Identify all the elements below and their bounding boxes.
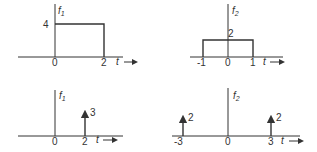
- panel-top-left: [18, 4, 135, 62]
- x-var: t: [263, 56, 267, 67]
- impulse-label: 3: [90, 107, 96, 118]
- signals-diagram: f1 4 0 2 t f2 2 -1 0 1 t f1 3 0 2 t f2 2…: [0, 0, 317, 152]
- x-tick: 1: [250, 57, 256, 68]
- x-var: t: [281, 135, 285, 146]
- x-tick: 0: [225, 57, 231, 68]
- y-label: f1: [58, 5, 65, 17]
- x-tick: 2: [82, 136, 88, 147]
- x-tick: 0: [52, 57, 58, 68]
- impulse-label: 2: [188, 112, 194, 123]
- x-tick: 0: [52, 136, 58, 147]
- x-tick: -3: [174, 136, 183, 147]
- y-label: f1: [59, 90, 66, 102]
- y-tick: 2: [228, 28, 234, 39]
- pulse: [55, 24, 104, 57]
- x-tick: -1: [197, 57, 206, 68]
- y-tick: 4: [43, 19, 49, 30]
- impulse-label: 2: [276, 112, 282, 123]
- y-label: f2: [232, 5, 239, 17]
- panel-bottom-left: [18, 90, 123, 140]
- x-var: t: [116, 56, 120, 67]
- x-tick: 2: [101, 57, 107, 68]
- x-tick: 0: [225, 136, 231, 147]
- y-label: f2: [233, 90, 240, 102]
- x-tick: 3: [268, 136, 274, 147]
